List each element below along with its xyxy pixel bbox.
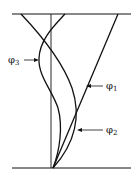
phi2-label: φ2 xyxy=(77,124,117,137)
phi3-arrowhead-icon xyxy=(34,58,39,62)
phi3-label: φ3 xyxy=(8,54,39,67)
svg-text:φ3: φ3 xyxy=(8,54,19,67)
svg-text:φ1: φ1 xyxy=(106,80,117,93)
phi3-curve xyxy=(39,14,65,168)
phi1-label: φ1 xyxy=(86,80,117,93)
svg-text:φ2: φ2 xyxy=(106,124,117,137)
mode-shape-diagram: φ3 φ1 φ2 xyxy=(0,0,137,178)
phi1-curve xyxy=(53,14,118,168)
phi2-curve xyxy=(21,14,76,168)
phi2-arrowhead-icon xyxy=(77,128,82,132)
